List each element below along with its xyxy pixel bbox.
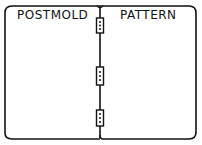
bottom-hinge [97,110,104,126]
right-panel-label: PATTERN [120,9,177,21]
left-panel-label: POSTMOLD [17,9,88,21]
top-hinge [97,18,104,33]
middle-hinge [97,67,104,85]
left-panel [5,6,100,139]
right-panel [100,6,196,139]
